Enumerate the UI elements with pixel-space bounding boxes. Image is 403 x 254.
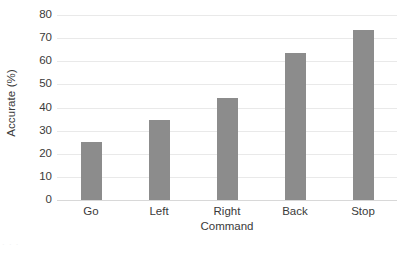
y-tick-label: 60 [26, 56, 52, 68]
bar-slot [125, 15, 193, 200]
plot-area [57, 15, 397, 200]
x-tick-label: Back [261, 203, 329, 219]
x-tick-label: Stop [329, 203, 397, 219]
y-axis-tick-labels: 01020304050607080 [22, 15, 52, 200]
scan-artifact: · · · [2, 240, 19, 249]
y-tick-label: 40 [26, 102, 52, 114]
bar-slot [193, 15, 261, 200]
bar-slot [329, 15, 397, 200]
x-tick-label: Left [125, 203, 193, 219]
bar-slot [261, 15, 329, 200]
y-tick-label: 50 [26, 79, 52, 91]
bar [353, 30, 374, 200]
x-tick-label: Right [193, 203, 261, 219]
bar [81, 142, 102, 200]
y-tick-label: 0 [26, 194, 52, 206]
bar [285, 53, 306, 200]
bar-slot [57, 15, 125, 200]
y-tick-label: 20 [26, 148, 52, 160]
y-axis-title-text: Accurate (%) [5, 69, 17, 137]
y-tick-label: 70 [26, 32, 52, 44]
x-axis-title: Command [57, 220, 397, 232]
y-tick-label: 80 [26, 9, 52, 21]
bar [217, 98, 238, 200]
bar-chart: Accurate (%) 01020304050607080 GoLeftRig… [0, 0, 403, 254]
x-axis-title-text: Command [200, 220, 253, 232]
x-tick-label: Go [57, 203, 125, 219]
y-tick-label: 30 [26, 125, 52, 137]
y-tick-label: 10 [26, 171, 52, 183]
bar [149, 120, 170, 200]
x-axis-tick-labels: GoLeftRightBackStop [57, 203, 397, 221]
gridline [57, 200, 397, 201]
y-axis-title: Accurate (%) [0, 0, 22, 205]
